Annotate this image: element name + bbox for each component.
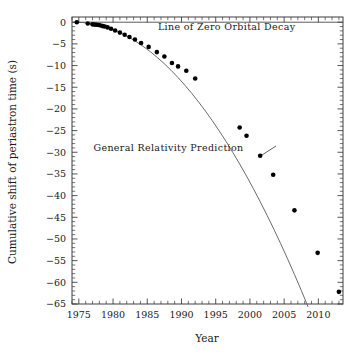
- y-tick-label: −60: [46, 277, 66, 288]
- y-tick-label: −65: [46, 298, 66, 309]
- data-point: [133, 37, 138, 42]
- data-point: [193, 76, 198, 81]
- data-point: [315, 251, 320, 256]
- data-point: [139, 41, 144, 46]
- x-tick-label: 1980: [101, 309, 125, 320]
- gr-prediction-label: General Relativity Prediction: [93, 142, 243, 153]
- data-point: [271, 173, 276, 178]
- data-point: [127, 35, 132, 40]
- y-tick-label: −35: [46, 168, 66, 179]
- data-point: [292, 208, 297, 213]
- y-tick-label: −40: [46, 190, 66, 201]
- y-tick-label: −50: [46, 233, 66, 244]
- data-point: [85, 21, 90, 26]
- y-tick-label: −20: [46, 103, 66, 114]
- data-point: [74, 20, 79, 25]
- data-point: [122, 32, 127, 37]
- data-point: [146, 45, 151, 50]
- data-point: [170, 61, 175, 66]
- y-tick-label: −30: [46, 147, 66, 158]
- data-point: [155, 50, 160, 55]
- x-tick-label: 1985: [135, 309, 159, 320]
- y-tick-label: −25: [46, 125, 66, 136]
- y-tick-label: −5: [52, 38, 66, 49]
- chart-figure: 19751980198519901995200020052010 0−5−10−…: [0, 0, 361, 352]
- x-tick-label: 1995: [204, 309, 228, 320]
- data-point: [118, 30, 123, 35]
- orbital-decay-plot: 19751980198519901995200020052010 0−5−10−…: [0, 0, 361, 352]
- data-point: [109, 26, 114, 31]
- x-tick-label: 2005: [272, 309, 296, 320]
- x-tick-label: 1990: [169, 309, 193, 320]
- data-point: [113, 28, 118, 33]
- x-axis-title: Year: [194, 332, 219, 344]
- zero-decay-label: Line of Zero Orbital Decay: [158, 21, 296, 32]
- y-tick-label: −45: [46, 212, 66, 223]
- data-point: [237, 125, 242, 130]
- y-axis-title: Cumulative shift of periastron time (s): [6, 60, 18, 264]
- data-point: [176, 64, 181, 69]
- y-tick-label: 0: [60, 17, 66, 28]
- x-tick-label: 1975: [67, 309, 91, 320]
- y-tick-label: −15: [46, 82, 66, 93]
- data-point: [162, 54, 167, 59]
- x-tick-label: 2010: [306, 309, 330, 320]
- y-tick-label: −55: [46, 255, 66, 266]
- data-point: [258, 153, 263, 158]
- x-tick-label: 2000: [238, 309, 262, 320]
- data-point: [337, 290, 342, 295]
- data-point: [184, 68, 189, 73]
- data-point: [244, 133, 249, 138]
- y-tick-label: −10: [46, 60, 66, 71]
